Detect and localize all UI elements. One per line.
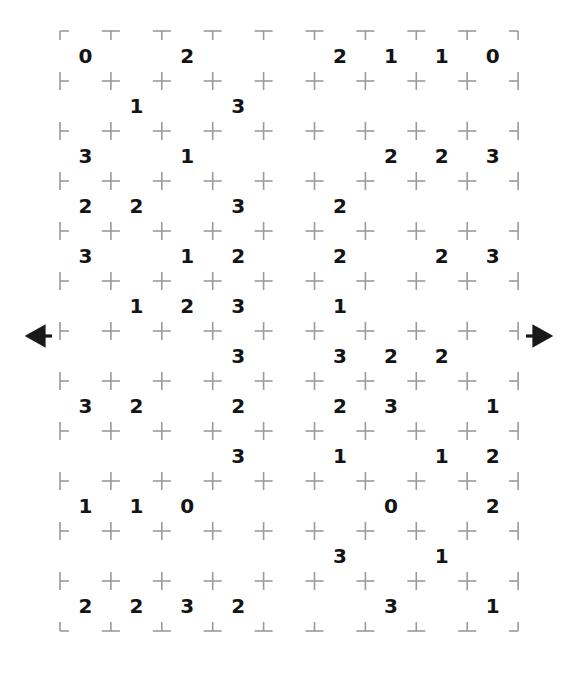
clue-number: 2	[376, 141, 406, 171]
clue-number: 1	[427, 41, 457, 71]
clue-number-layer: 0221101331223223231222312313322322231311…	[0, 0, 581, 676]
clue-number: 2	[325, 191, 355, 221]
clue-number: 3	[223, 91, 253, 121]
clue-number: 2	[121, 191, 151, 221]
clue-number: 1	[478, 591, 508, 621]
clue-number: 2	[70, 591, 100, 621]
clue-number: 3	[223, 341, 253, 371]
clue-number: 0	[172, 491, 202, 521]
clue-number: 1	[121, 291, 151, 321]
clue-number: 2	[223, 391, 253, 421]
clue-number: 3	[172, 591, 202, 621]
clue-number: 3	[223, 441, 253, 471]
clue-number: 3	[70, 241, 100, 271]
clue-number: 3	[70, 391, 100, 421]
clue-number: 1	[172, 141, 202, 171]
clue-number: 0	[70, 41, 100, 71]
clue-number: 1	[427, 541, 457, 571]
clue-number: 1	[427, 441, 457, 471]
clue-number: 1	[172, 241, 202, 271]
clue-number: 2	[172, 41, 202, 71]
clue-number: 0	[376, 491, 406, 521]
clue-number: 1	[376, 41, 406, 71]
clue-number: 2	[223, 241, 253, 271]
clue-number: 3	[376, 391, 406, 421]
clue-number: 3	[223, 291, 253, 321]
clue-number: 2	[427, 341, 457, 371]
clue-number: 3	[376, 591, 406, 621]
clue-number: 1	[478, 391, 508, 421]
clue-number: 2	[70, 191, 100, 221]
clue-number: 2	[325, 41, 355, 71]
clue-number: 2	[478, 491, 508, 521]
clue-number: 2	[223, 591, 253, 621]
puzzle-grid-container: 0221101331223223231222312313322322231311…	[0, 0, 581, 676]
clue-number: 2	[427, 141, 457, 171]
clue-number: 2	[172, 291, 202, 321]
clue-number: 3	[325, 341, 355, 371]
clue-number: 1	[121, 91, 151, 121]
clue-number: 2	[325, 241, 355, 271]
clue-number: 3	[478, 141, 508, 171]
clue-number: 3	[223, 191, 253, 221]
clue-number: 2	[376, 341, 406, 371]
clue-number: 2	[427, 241, 457, 271]
clue-number: 2	[478, 441, 508, 471]
clue-number: 2	[325, 391, 355, 421]
clue-number: 1	[121, 491, 151, 521]
clue-number: 0	[478, 41, 508, 71]
clue-number: 3	[70, 141, 100, 171]
clue-number: 1	[70, 491, 100, 521]
clue-number: 1	[325, 291, 355, 321]
clue-number: 2	[121, 391, 151, 421]
clue-number: 3	[325, 541, 355, 571]
clue-number: 2	[121, 591, 151, 621]
clue-number: 3	[478, 241, 508, 271]
clue-number: 1	[325, 441, 355, 471]
